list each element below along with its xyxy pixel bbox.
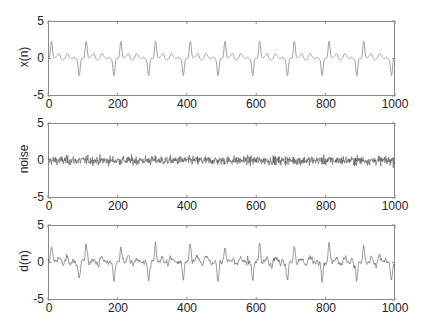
xtick-1000: 1000 — [375, 301, 415, 315]
ytick-5: 5 — [24, 218, 44, 232]
xtick-800: 800 — [306, 301, 346, 315]
xtick-200: 200 — [98, 301, 138, 315]
xtick-400: 400 — [167, 199, 207, 213]
line-xn — [48, 21, 395, 96]
xtick-1000: 1000 — [375, 199, 415, 213]
xtick-400: 400 — [167, 97, 207, 111]
xtick-1000: 1000 — [375, 97, 415, 111]
xtick-600: 600 — [236, 301, 276, 315]
ytick-5: 5 — [24, 14, 44, 28]
xtick-200: 200 — [98, 199, 138, 213]
ytick-0: 0 — [24, 51, 44, 65]
xtick-400: 400 — [167, 301, 207, 315]
line-dn — [48, 225, 395, 300]
line-noise — [48, 123, 395, 198]
xtick-800: 800 — [306, 97, 346, 111]
xtick-200: 200 — [98, 97, 138, 111]
xtick-0: 0 — [29, 97, 69, 111]
xtick-0: 0 — [29, 301, 69, 315]
xtick-600: 600 — [236, 199, 276, 213]
xtick-600: 600 — [236, 97, 276, 111]
xtick-800: 800 — [306, 199, 346, 213]
ytick-5: 5 — [24, 116, 44, 130]
xtick-0: 0 — [29, 199, 69, 213]
ytick-0: 0 — [24, 255, 44, 269]
ytick-0: 0 — [24, 153, 44, 167]
